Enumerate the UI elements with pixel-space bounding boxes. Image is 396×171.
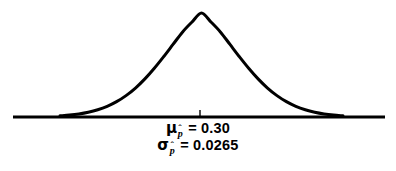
normal-distribution-curve xyxy=(60,13,343,116)
distribution-plot-canvas xyxy=(0,0,396,171)
normal-curve-figure: μˆp = 0.30 σˆp = 0.0265 xyxy=(0,0,396,171)
